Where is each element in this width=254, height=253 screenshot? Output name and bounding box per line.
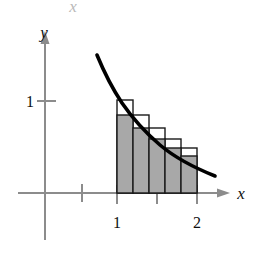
- y-tick-label-1: 1: [26, 93, 34, 110]
- lower-rectangle-1: [117, 115, 133, 193]
- y-axis-label: y: [38, 23, 48, 42]
- x-axis-arrowhead: [217, 189, 230, 198]
- riemann-sum-figure: x: [0, 0, 254, 253]
- figure-canvas: x: [0, 0, 254, 253]
- lower-rectangle-2: [133, 128, 149, 193]
- x-tick-label-2: 2: [193, 214, 201, 231]
- x-axis-label: x: [236, 184, 245, 203]
- clipped-top-glyph: x: [68, 0, 77, 16]
- x-tick-label-1: 1: [113, 214, 121, 231]
